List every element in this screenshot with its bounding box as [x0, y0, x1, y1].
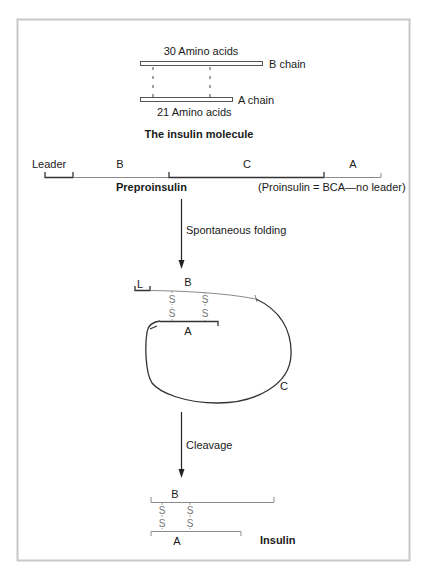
cleavage-step: Cleavage: [179, 412, 233, 478]
c-segment: [169, 172, 324, 178]
sulfur-atom: S: [187, 505, 194, 516]
insulin-disulfide-bond-1: S S: [158, 503, 166, 531]
folded-c-loop: [146, 299, 291, 403]
b-segment-label: B: [116, 158, 123, 170]
cleavage-arrow-head-icon: [179, 469, 185, 478]
folded-leader-label: L: [137, 278, 143, 290]
a-chain-bar: [141, 98, 233, 102]
leader-segment-label: Leader: [32, 158, 67, 170]
insulin-molecule-caption: The insulin molecule: [145, 128, 254, 140]
b-chain-bar: [141, 62, 263, 66]
preproinsulin-section: Leader B C A Preproinsulin (Proinsulin =…: [32, 158, 406, 193]
leader-segment: [45, 172, 73, 178]
insulin-caption: Insulin: [260, 534, 296, 546]
insulin-disulfide-bond-2: S S: [186, 503, 194, 531]
folded-a-label: A: [184, 325, 192, 337]
insulin-b-label: B: [171, 488, 178, 500]
c-segment-label: C: [243, 158, 251, 170]
b-length-label: 30 Amino acids: [164, 45, 239, 57]
a-segment: [324, 173, 381, 178]
folding-arrow-head-icon: [179, 260, 185, 269]
a-segment-label: A: [349, 158, 357, 170]
folded-c-label: C: [280, 380, 288, 392]
sulfur-atom: S: [169, 294, 176, 305]
sulfur-atom: S: [169, 308, 176, 319]
sulfur-atom: S: [202, 294, 209, 305]
proinsulin-note: (Proinsulin = BCA—no leader): [258, 181, 406, 193]
sulfur-atom: S: [159, 505, 166, 516]
b-chain-label: B chain: [269, 58, 306, 70]
folding-label: Spontaneous folding: [186, 224, 286, 236]
insulin-section: B A S S S S Insulin: [151, 488, 296, 547]
folded-proinsulin-section: L B C A S S S S: [135, 276, 291, 403]
insulin-b-chain: [151, 497, 274, 503]
insulin-diagram: 30 Amino acids B chain A chain 21 Amino …: [0, 0, 425, 572]
folded-disulfide-bond-1: S S: [168, 291, 176, 321]
folded-disulfide-bond-2: S S: [201, 292, 209, 321]
c-a-junction-tick: [150, 326, 157, 329]
a-chain-label: A chain: [238, 94, 274, 106]
cleavage-label: Cleavage: [186, 439, 232, 451]
folding-step: Spontaneous folding: [179, 199, 287, 269]
sulfur-atom: S: [202, 308, 209, 319]
sulfur-atom: S: [187, 518, 194, 529]
insulin-molecule-section: 30 Amino acids B chain A chain 21 Amino …: [141, 45, 306, 140]
sulfur-atom: S: [159, 518, 166, 529]
a-length-label: 21 Amino acids: [157, 106, 232, 118]
insulin-a-label: A: [173, 535, 181, 547]
insulin-a-chain: [151, 532, 241, 537]
preproinsulin-caption: Preproinsulin: [116, 181, 187, 193]
folded-b-label: B: [184, 276, 191, 288]
